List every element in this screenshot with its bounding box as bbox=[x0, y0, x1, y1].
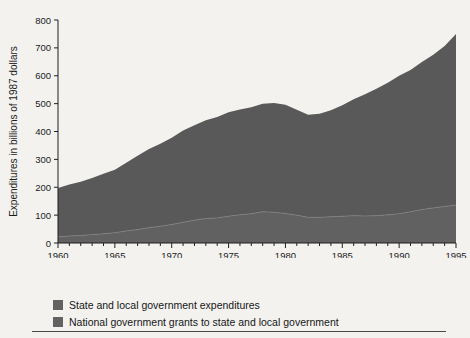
y-tick-label: 800 bbox=[35, 15, 51, 26]
legend-swatch-national-grants bbox=[53, 317, 63, 327]
figure: 0100200300400500600700800 19601965197019… bbox=[0, 0, 470, 338]
area-state-local-expenditures bbox=[58, 34, 456, 237]
x-tick-label: 1990 bbox=[389, 250, 410, 258]
chart-plot-area: 0100200300400500600700800 19601965197019… bbox=[0, 0, 470, 258]
y-tick-label: 0 bbox=[46, 238, 51, 249]
footer-divider bbox=[32, 331, 446, 332]
x-tick-label: 1995 bbox=[445, 250, 466, 258]
x-tick-label: 1970 bbox=[161, 250, 182, 258]
x-tick-label: 1985 bbox=[332, 250, 353, 258]
y-tick-label: 200 bbox=[35, 182, 51, 193]
y-tick-label: 500 bbox=[35, 98, 51, 109]
x-axis-tick-labels: 19601965197019751980198519901995 bbox=[47, 250, 466, 258]
legend-item-national-grants: National government grants to state and … bbox=[53, 314, 453, 329]
stacked-area-chart: 0100200300400500600700800 19601965197019… bbox=[0, 0, 470, 258]
y-tick-label: 300 bbox=[35, 154, 51, 165]
x-tick-label: 1960 bbox=[47, 250, 68, 258]
y-tick-label: 400 bbox=[35, 126, 51, 137]
x-tick-label: 1980 bbox=[275, 250, 296, 258]
legend-swatch-state-local bbox=[53, 300, 63, 310]
y-tick-label: 600 bbox=[35, 70, 51, 81]
y-axis-ticks bbox=[54, 20, 58, 243]
x-tick-label: 1975 bbox=[218, 250, 239, 258]
legend-item-state-local: State and local government expenditures bbox=[53, 297, 453, 312]
chart-legend: State and local government expenditures … bbox=[53, 297, 453, 331]
y-tick-label: 100 bbox=[35, 210, 51, 221]
x-axis-ticks bbox=[58, 243, 456, 248]
chart-series-group bbox=[58, 34, 456, 243]
legend-label-national-grants: National government grants to state and … bbox=[69, 316, 339, 328]
x-tick-label: 1965 bbox=[104, 250, 125, 258]
legend-label-state-local: State and local government expenditures bbox=[69, 299, 260, 311]
y-axis-tick-labels: 0100200300400500600700800 bbox=[35, 15, 51, 249]
y-tick-label: 700 bbox=[35, 42, 51, 53]
y-axis-title: Expenditures in billions of 1987 dollars bbox=[8, 46, 19, 217]
